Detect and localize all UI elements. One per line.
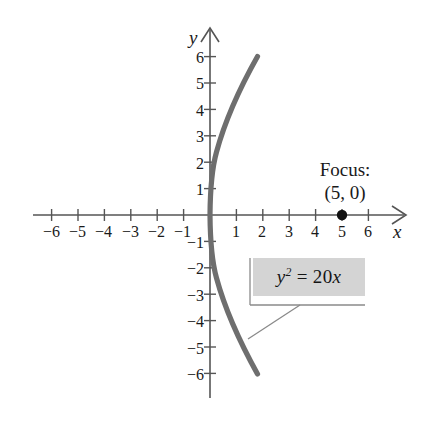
focus-annotation-point: (5, 0) — [290, 181, 400, 204]
x-tick-label--5: −5 — [69, 224, 86, 240]
x-tick-label-2: 2 — [258, 224, 266, 240]
y-tick-label--2: −2 — [183, 261, 204, 277]
x-tick-label-4: 4 — [311, 224, 319, 240]
y-tick-label--6: −6 — [183, 367, 204, 383]
x-tick-label--2: −2 — [148, 224, 165, 240]
y-tick-label-3: 3 — [192, 129, 204, 145]
y-tick-label-5: 5 — [192, 76, 204, 92]
equation-callout-box: y2 = 20x — [253, 258, 365, 296]
focus-point-marker — [337, 210, 347, 220]
x-tick-label--4: −4 — [95, 224, 112, 240]
x-tick-label-3: 3 — [285, 224, 293, 240]
y-axis-label: y — [189, 28, 197, 47]
y-tick-label-6: 6 — [192, 50, 204, 66]
x-tick-label--6: −6 — [43, 224, 60, 240]
equation-operator: = 20 — [292, 266, 333, 287]
x-tick-label--3: −3 — [122, 224, 139, 240]
plot-canvas — [0, 0, 427, 426]
parabola-figure: −6 −5 −4 −3 −2 −1 1 2 3 4 5 6 6 5 4 3 2 … — [0, 0, 427, 426]
focus-annotation: Focus: (5, 0) — [290, 158, 400, 204]
equation-variable-x: x — [332, 266, 341, 287]
x-tick-label-6: 6 — [364, 224, 372, 240]
x-axis — [33, 206, 406, 224]
y-tick-label-1: 1 — [192, 182, 204, 198]
y-tick-label-2: 2 — [192, 156, 204, 172]
focus-annotation-title: Focus: — [290, 158, 400, 181]
y-tick-label--4: −4 — [183, 314, 204, 330]
y-tick-label--3: −3 — [183, 288, 204, 304]
y-tick-label--1: −1 — [183, 235, 204, 251]
x-axis-label: x — [393, 222, 401, 241]
y-tick-label--5: −5 — [183, 341, 204, 357]
equation-text: y2 = 20x — [277, 266, 341, 288]
x-tick-label-1: 1 — [232, 224, 240, 240]
x-tick-label-5: 5 — [338, 224, 346, 240]
equation-variable-y: y — [277, 266, 286, 287]
y-tick-label-4: 4 — [192, 103, 204, 119]
